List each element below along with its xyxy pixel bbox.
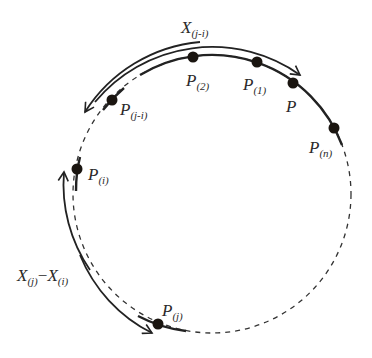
label-p: P <box>285 97 296 116</box>
label-pi: P(i) <box>87 165 109 187</box>
label-p2: P(2) <box>185 71 210 93</box>
point-p2 <box>188 52 199 63</box>
point-pn <box>329 123 340 134</box>
label-top-arrow: X(j-i) <box>180 18 209 40</box>
point-pi <box>72 164 83 175</box>
point-pj <box>153 319 164 330</box>
point-p1 <box>252 57 263 68</box>
label-pji: P(j-i) <box>119 100 148 122</box>
top-arrow-left-head <box>85 42 200 112</box>
label-pj: P(j) <box>161 301 183 323</box>
label-left-arrow: X(j)−X(i) <box>16 266 68 288</box>
label-p1: P(1) <box>242 75 267 97</box>
circle-diagram: P(2) P(1) P P(n) P(j-i) P(i) P(j) X(j-i)… <box>0 0 372 358</box>
point-p <box>288 78 299 89</box>
solid-arc-top <box>140 55 342 145</box>
point-pji <box>107 95 118 106</box>
label-pn: P(n) <box>308 138 333 160</box>
